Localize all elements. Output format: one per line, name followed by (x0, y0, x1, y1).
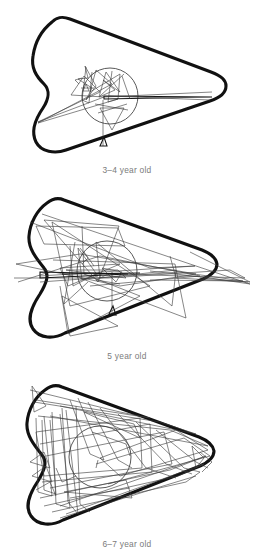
figure-container: 3–4 year old (0, 0, 254, 560)
scribble-group (38, 66, 212, 146)
drawing-canvas (0, 372, 254, 534)
target-circle (77, 241, 137, 301)
panel-label: 5 year old (0, 351, 254, 361)
drawing-canvas (0, 0, 254, 160)
panel-label: 6–7 year old (0, 539, 254, 549)
panel-label: 3–4 year old (0, 165, 254, 175)
drawing-svg (0, 0, 254, 160)
scribble-group (14, 214, 250, 336)
drawing-panel-5-year-old: 5 year old (0, 186, 254, 372)
drawing-panel-6-7-year-old: 6–7 year old (0, 372, 254, 560)
drawing-panel-3-4-year-old: 3–4 year old (0, 0, 254, 186)
drawing-svg (0, 372, 254, 534)
drawing-canvas (0, 186, 254, 346)
shape-outline (33, 17, 226, 152)
drawing-svg (0, 186, 254, 346)
